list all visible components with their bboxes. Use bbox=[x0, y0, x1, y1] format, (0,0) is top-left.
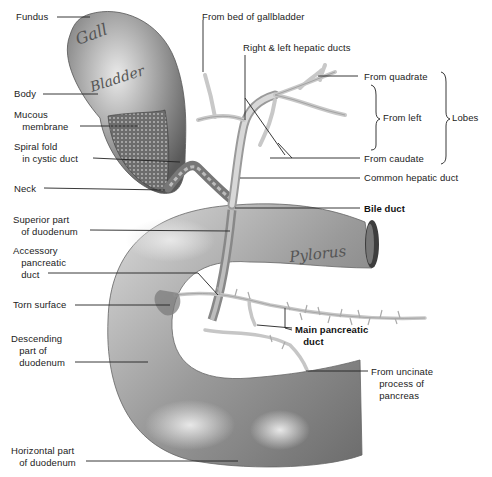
anatomy-diagram: Pylorus Gall Bladder bbox=[0, 0, 492, 477]
label-right-left-hepatic-ducts: Right & left hepatic ducts bbox=[243, 42, 351, 54]
label-body: Body bbox=[14, 88, 36, 100]
label-main-pancreatic-duct: Main pancreatic duct bbox=[295, 324, 368, 348]
label-from-caudate: From caudate bbox=[364, 153, 424, 165]
label-from-bed-of-gallbladder: From bed of gallbladder bbox=[202, 11, 305, 23]
label-descending-duodenum: Descending part of duodenum bbox=[11, 333, 65, 369]
label-from-left: From left bbox=[383, 112, 421, 124]
label-from-quadrate: From quadrate bbox=[364, 71, 428, 83]
label-horizontal-duodenum: Horizontal part of duodenum bbox=[11, 445, 76, 469]
label-common-hepatic-duct: Common hepatic duct bbox=[364, 172, 458, 184]
label-torn-surface: Torn surface bbox=[13, 299, 66, 311]
label-lobes: Lobes bbox=[452, 112, 478, 124]
gallbladder: Gall Bladder bbox=[67, 11, 185, 193]
label-fundus: Fundus bbox=[16, 11, 48, 23]
label-accessory-pancreatic-duct: Accessory pancreatic duct bbox=[13, 245, 66, 281]
label-bile-duct: Bile duct bbox=[364, 203, 405, 215]
label-spiral-fold: Spiral fold in cystic duct bbox=[14, 141, 78, 165]
label-mucous-membrane: Mucous membrane bbox=[14, 109, 68, 133]
label-from-uncinate-process: From uncinate process of pancreas bbox=[371, 366, 433, 402]
label-superior-duodenum: Superior part of duodenum bbox=[13, 214, 78, 238]
label-neck: Neck bbox=[14, 183, 36, 195]
